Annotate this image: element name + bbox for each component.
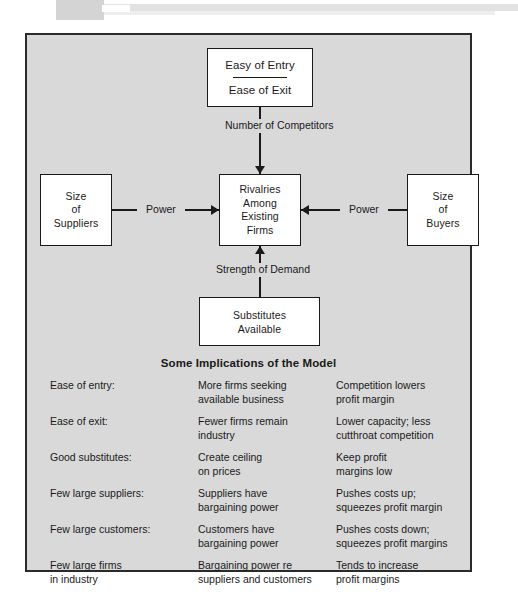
edge-label-strength-of-demand: Strength of Demand	[205, 263, 321, 277]
cell-line: margins low	[336, 465, 471, 479]
table-row: Few large suppliers: Suppliers have barg…	[27, 487, 470, 523]
edge-label-line: Strength of Demand	[216, 263, 310, 275]
header-block-notch	[102, 5, 130, 12]
implication-effect: Customers have bargaining power	[198, 523, 338, 550]
implication-result: Lower capacity; less cutthroat competiti…	[336, 415, 471, 442]
box-label-line: Size	[433, 190, 454, 204]
box-label-line: of	[72, 203, 81, 217]
implication-factor: Few large customers:	[50, 523, 200, 537]
cell-line: Suppliers have	[198, 487, 338, 501]
cell-line: Good substitutes:	[50, 451, 200, 465]
diagram-box-size-of-buyers: Size of Buyers	[407, 174, 479, 246]
cell-line: More firms seeking	[198, 379, 338, 393]
arrowhead-down-to-center	[255, 166, 265, 174]
arrowhead-right-to-center	[211, 205, 219, 215]
box-label-line: Among	[243, 197, 277, 211]
edge-label-line: Competitors	[277, 119, 334, 131]
edge-label-line: Number of	[225, 119, 274, 131]
table-row: Ease of exit: Fewer firms remain industr…	[27, 415, 470, 451]
implication-result: Pushes costs down; squeezes profit margi…	[336, 523, 471, 550]
cell-line: Few large firms	[50, 559, 200, 573]
cell-line: cutthroat competition	[336, 429, 471, 443]
implication-factor: Ease of entry:	[50, 379, 200, 393]
edge-label-power-suppliers: Power	[137, 203, 185, 217]
cell-line: Pushes costs down;	[336, 523, 471, 537]
header-rule-secondary	[75, 11, 495, 15]
table-row: Good substitutes: Create ceiling on pric…	[27, 451, 470, 487]
cell-line: Customers have	[198, 523, 338, 537]
box-label-line: Existing	[241, 210, 279, 224]
header-block-mark	[56, 0, 104, 20]
cell-line: on prices	[198, 465, 338, 479]
diagram-box-entry-exit: Easy of Entry Ease of Exit	[207, 48, 313, 107]
cell-line: available business	[198, 393, 338, 407]
cell-line: Lower capacity; less	[336, 415, 471, 429]
cell-line: profit margin	[336, 393, 471, 407]
implications-table: Ease of entry: More firms seeking availa…	[27, 379, 470, 595]
implication-effect: Create ceiling on prices	[198, 451, 338, 478]
arrowhead-left-to-center	[301, 205, 309, 215]
table-row: Few large customers: Customers have barg…	[27, 523, 470, 559]
cell-line: industry	[198, 429, 338, 443]
cell-line: bargaining power	[198, 537, 338, 551]
cell-line: Few large suppliers:	[50, 487, 200, 501]
implication-factor: Few large suppliers:	[50, 487, 200, 501]
cell-line: squeezes profit margin	[336, 501, 471, 515]
edge-label-line: Power	[349, 203, 379, 215]
cell-line: in industry	[50, 573, 200, 587]
diagram-box-size-of-suppliers: Size of Suppliers	[40, 174, 112, 246]
box-label-line: Substitutes	[233, 308, 286, 322]
cell-line: squeezes profit margins	[336, 537, 471, 551]
cell-line: Fewer firms remain	[198, 415, 338, 429]
implication-factor: Few large firms in industry	[50, 559, 200, 586]
implications-heading: Some Implications of the Model	[27, 357, 470, 369]
cell-line: Ease of exit:	[50, 415, 200, 429]
implication-factor: Ease of exit:	[50, 415, 200, 429]
box-label-ease-of-exit: Ease of Exit	[229, 83, 292, 97]
page-header-band	[28, 0, 490, 20]
table-row: Few large firms in industry Bargaining p…	[27, 559, 470, 595]
edge-label-number-of-competitors: Number of Competitors	[222, 119, 304, 133]
arrowhead-up-to-center	[255, 246, 265, 254]
box-divider-rule	[233, 77, 287, 79]
cell-line: Pushes costs up;	[336, 487, 471, 501]
box-label-line: Firms	[247, 224, 274, 238]
box-label-line: Buyers	[426, 217, 459, 231]
table-row: Ease of entry: More firms seeking availa…	[27, 379, 470, 415]
implication-effect: Fewer firms remain industry	[198, 415, 338, 442]
box-label-line: Size	[66, 190, 87, 204]
diagram-box-substitutes-available: Substitutes Available	[199, 297, 320, 346]
cell-line: Few large customers:	[50, 523, 200, 537]
cell-line: suppliers and customers	[198, 573, 338, 587]
box-label-line: Suppliers	[54, 217, 99, 231]
implication-effect: More firms seeking available business	[198, 379, 338, 406]
box-label-line: of	[439, 203, 448, 217]
edge-label-line: Power	[146, 203, 176, 215]
connector-entry-to-center	[259, 107, 261, 174]
header-rule	[75, 4, 518, 11]
implication-factor: Good substitutes:	[50, 451, 200, 465]
box-label-line: Available	[238, 322, 281, 336]
implication-effect: Suppliers have bargaining power	[198, 487, 338, 514]
edge-label-power-buyers: Power	[340, 203, 388, 217]
implication-result: Tends to increase profit margins	[336, 559, 471, 586]
box-label-easy-of-entry: Easy of Entry	[225, 58, 295, 72]
implication-result: Keep profit margins low	[336, 451, 471, 478]
implication-effect: Bargaining power re suppliers and custom…	[198, 559, 338, 586]
cell-line: Create ceiling	[198, 451, 338, 465]
diagram-box-rivalries: Rivalries Among Existing Firms	[219, 174, 301, 246]
figure-panel: Number of Competitors Strength of Demand…	[25, 33, 472, 572]
cell-line: profit margins	[336, 573, 471, 587]
cell-line: Ease of entry:	[50, 379, 200, 393]
cell-line: bargaining power	[198, 501, 338, 515]
cell-line: Tends to increase	[336, 559, 471, 573]
box-label-line: Rivalries	[239, 183, 280, 197]
implication-result: Pushes costs up; squeezes profit margin	[336, 487, 471, 514]
cell-line: Keep profit	[336, 451, 471, 465]
implication-result: Competition lowers profit margin	[336, 379, 471, 406]
cell-line: Bargaining power re	[198, 559, 338, 573]
cell-line: Competition lowers	[336, 379, 471, 393]
